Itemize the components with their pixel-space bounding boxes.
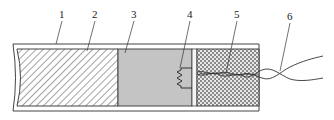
- callout-1: 1: [56, 8, 65, 44]
- label-5: 5: [234, 8, 240, 20]
- checkered-fill-section: [197, 49, 259, 106]
- label-4: 4: [187, 8, 193, 20]
- separator-gap: [192, 49, 197, 106]
- label-3: 3: [131, 8, 137, 20]
- hatched-fill-section: [17, 49, 118, 106]
- sensor-cross-section-diagram: 1 2 3 4 5 6: [0, 0, 334, 120]
- label-2: 2: [92, 8, 98, 20]
- gray-fill-section: [118, 49, 192, 106]
- label-1: 1: [59, 8, 65, 20]
- callout-6: 6: [280, 10, 293, 71]
- label-6: 6: [287, 10, 293, 22]
